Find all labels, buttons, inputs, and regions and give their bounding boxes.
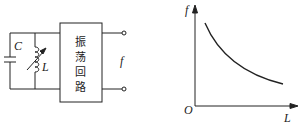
inductor-label: L xyxy=(41,60,49,74)
x-axis-arrow-icon xyxy=(290,104,298,109)
block-char-4: 路 xyxy=(75,81,86,94)
diagram: C L 振 荡 回 路 f f L O xyxy=(0,0,304,129)
y-axis-arrow-icon xyxy=(193,5,198,13)
f-vs-L-chart xyxy=(193,5,299,109)
block-char-1: 振 xyxy=(75,35,86,49)
x-axis-label: L xyxy=(283,111,291,125)
terminal-top-icon xyxy=(122,31,126,35)
capacitor-label: C xyxy=(14,39,23,53)
block-char-2: 荡 xyxy=(75,51,86,64)
terminal-bottom-icon xyxy=(122,87,126,91)
y-axis-label: f xyxy=(185,3,190,17)
curve xyxy=(205,23,283,84)
lc-tank xyxy=(4,33,60,89)
block-char-3: 回 xyxy=(75,66,86,79)
output-frequency-label: f xyxy=(120,54,125,68)
origin-label: O xyxy=(184,103,193,117)
